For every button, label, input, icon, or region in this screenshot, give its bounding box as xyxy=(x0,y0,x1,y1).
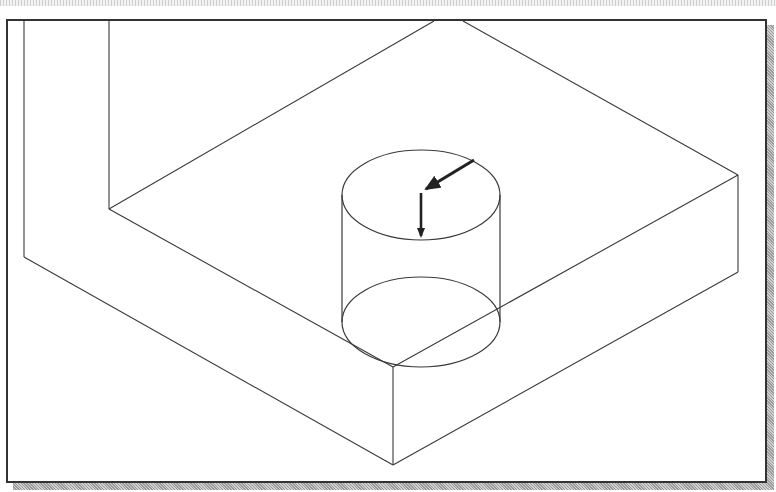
base-bottom-left-edge xyxy=(24,257,393,465)
direction-arrows xyxy=(421,160,474,236)
base-back-right-edge xyxy=(463,21,738,175)
block-edges xyxy=(24,21,738,465)
cylinder xyxy=(342,150,500,367)
base-back-left-edge xyxy=(109,21,434,209)
base-top-front-right-edge xyxy=(393,175,738,367)
isometric-drawing xyxy=(0,0,776,492)
cylinder-bottom-ellipse xyxy=(342,277,500,367)
base-bottom-right-edge xyxy=(393,272,738,465)
slanted-arrow-icon xyxy=(426,160,474,189)
figure-canvas xyxy=(0,0,776,492)
